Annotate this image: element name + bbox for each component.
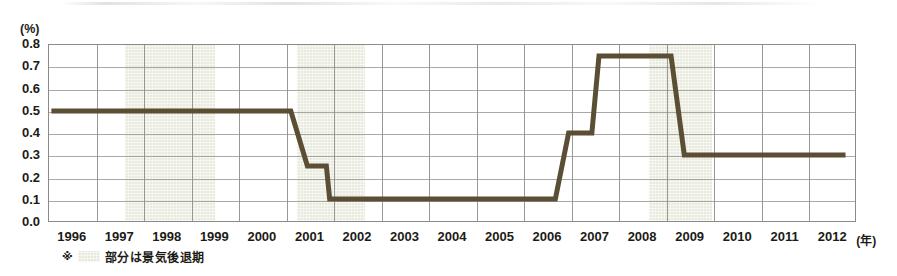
x-tick-2000: 2000 <box>237 230 287 243</box>
x-tick-1998: 1998 <box>142 230 192 243</box>
footnote-mark-icon: ※ <box>62 250 73 263</box>
y-tick-0.0: 0.0 <box>0 215 40 228</box>
footnote-text: 部分は景気後退期 <box>105 248 205 265</box>
x-axis-unit-label: (年) <box>856 231 876 248</box>
y-tick-0.6: 0.6 <box>0 82 40 95</box>
series-layer <box>49 45 855 221</box>
y-tick-0.1: 0.1 <box>0 193 40 206</box>
x-tick-2009: 2009 <box>665 230 715 243</box>
series-line-1 <box>51 56 845 199</box>
x-tick-2003: 2003 <box>379 230 429 243</box>
x-tick-2006: 2006 <box>522 230 572 243</box>
x-tick-1997: 1997 <box>94 230 144 243</box>
plot-inner <box>49 45 855 221</box>
scan-artifact-strip <box>60 2 820 5</box>
footnote: ※ 部分は景気後退期 <box>62 248 205 265</box>
x-tick-2002: 2002 <box>332 230 382 243</box>
y-tick-0.7: 0.7 <box>0 59 40 72</box>
interest-rate-line-chart: (%) 0.00.10.20.30.40.50.60.70.8 19961997… <box>0 0 897 276</box>
y-tick-0.8: 0.8 <box>0 37 40 50</box>
x-tick-2008: 2008 <box>617 230 667 243</box>
recession-band-swatch-icon <box>78 251 100 262</box>
x-tick-1999: 1999 <box>189 230 239 243</box>
x-tick-2010: 2010 <box>712 230 762 243</box>
x-tick-2011: 2011 <box>760 230 810 243</box>
x-tick-2005: 2005 <box>475 230 525 243</box>
y-tick-0.3: 0.3 <box>0 148 40 161</box>
x-tick-2004: 2004 <box>427 230 477 243</box>
y-axis-unit-label: (%) <box>20 22 39 36</box>
x-tick-2012: 2012 <box>807 230 857 243</box>
plot-area <box>48 44 856 222</box>
x-tick-2001: 2001 <box>284 230 334 243</box>
y-tick-0.2: 0.2 <box>0 171 40 184</box>
x-tick-1996: 1996 <box>47 230 97 243</box>
y-tick-0.4: 0.4 <box>0 126 40 139</box>
x-tick-2007: 2007 <box>570 230 620 243</box>
y-tick-0.5: 0.5 <box>0 104 40 117</box>
